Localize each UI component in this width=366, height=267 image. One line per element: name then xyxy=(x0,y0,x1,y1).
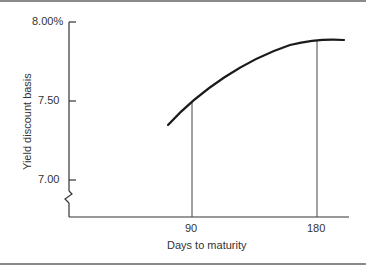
axis-break-icon xyxy=(65,191,72,203)
y-tick-7-50: 7.50 xyxy=(38,94,59,106)
yield-curve-line xyxy=(168,40,344,125)
x-tick-180: 180 xyxy=(307,222,325,234)
x-tick-90: 90 xyxy=(185,222,197,234)
x-axis-title: Days to maturity xyxy=(167,239,246,251)
y-tick-8-00: 8.00% xyxy=(32,15,63,27)
y-axis xyxy=(65,22,76,217)
y-axis-title: Yield discount basis xyxy=(21,73,33,170)
y-tick-7-00: 7.00 xyxy=(38,173,59,185)
reference-lines xyxy=(192,41,317,217)
